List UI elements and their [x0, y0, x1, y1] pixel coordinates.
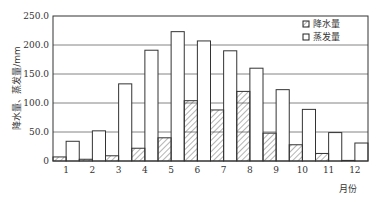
bar-evaporation [250, 68, 263, 161]
y-tick-label: 250.0 [23, 11, 49, 21]
bar-precipitation [237, 91, 250, 161]
x-tick-label: 5 [168, 165, 174, 175]
y-tick-label: 150.0 [23, 69, 49, 79]
x-tick-label: 1 [63, 165, 69, 175]
y-tick-label: 0 [43, 156, 49, 166]
bar-evaporation [66, 141, 79, 161]
bar-evaporation [145, 50, 158, 161]
x-tick-label: 11 [323, 165, 334, 175]
bar-precipitation [184, 101, 197, 161]
bar-evaporation [329, 133, 342, 161]
x-tick-label: 3 [116, 165, 122, 175]
x-tick-label: 9 [273, 165, 279, 175]
legend-swatch-precip [303, 21, 309, 27]
x-axis-label: 月份 [339, 183, 357, 194]
bars [53, 32, 368, 161]
y-axis-label: 降水量、蒸发量/mm [11, 46, 22, 130]
bar-evaporation [119, 84, 132, 161]
bar-precipitation [158, 138, 171, 161]
x-tick-label: 12 [349, 165, 360, 175]
bar-evaporation [92, 131, 105, 161]
bar-precipitation [211, 110, 224, 161]
bar-precipitation [53, 157, 66, 161]
x-tick-label: 2 [90, 165, 96, 175]
x-tick-label: 6 [195, 165, 201, 175]
legend: 降水量 蒸发量 [303, 18, 340, 42]
legend-label-precip: 降水量 [313, 18, 340, 29]
bar-evaporation [224, 51, 237, 161]
y-tick-label: 200.0 [23, 40, 49, 50]
y-tick-label: 50.0 [29, 127, 49, 137]
legend-label-evap: 蒸发量 [313, 31, 340, 42]
bar-precipitation [132, 148, 145, 161]
y-tick-labels: 050.0100.0150.0200.0250.0 [23, 11, 49, 166]
x-tick-label: 10 [297, 165, 309, 175]
bar-evaporation [355, 143, 368, 161]
bar-evaporation [171, 32, 184, 161]
x-tick-label: 8 [247, 165, 253, 175]
bar-evaporation [276, 90, 289, 161]
x-tick-labels: 123456789101112 [63, 165, 360, 175]
y-tick-label: 100.0 [23, 98, 49, 108]
bar-precipitation [106, 156, 119, 161]
legend-swatch-evap [303, 34, 309, 40]
bar-precipitation [316, 153, 329, 161]
bar-evaporation [197, 41, 210, 161]
x-tick-label: 7 [221, 165, 227, 175]
x-tick-label: 4 [142, 165, 148, 175]
bar-evaporation [302, 109, 315, 161]
chart: 050.0100.0150.0200.0250.0 12345678910111… [0, 0, 375, 200]
bar-precipitation [263, 133, 276, 161]
bar-precipitation [289, 145, 302, 161]
